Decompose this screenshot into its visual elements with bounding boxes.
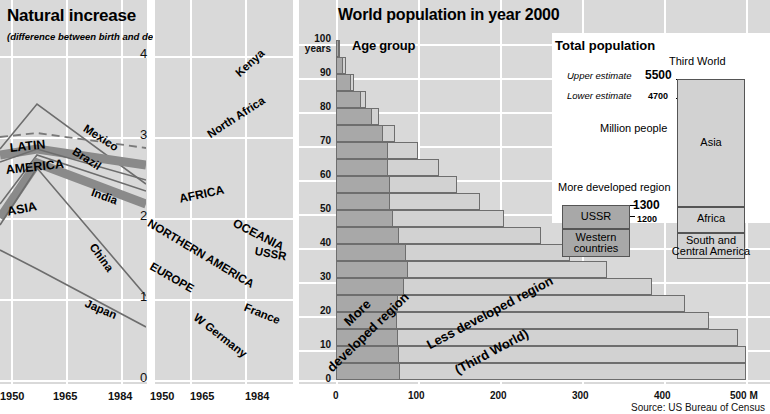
infographic-page: Natural increase (difference between bir… (0, 0, 770, 414)
pyramid-bar-more-developed (336, 244, 406, 261)
inset-block-label-south-central-2: Central America (663, 246, 759, 257)
y-tick-90: 90 (301, 67, 331, 78)
y-tick-0: 0 (301, 373, 331, 384)
third-world-lower-value: 4700 (648, 91, 668, 101)
pyramid-bar-more-developed (336, 193, 390, 210)
third-world-label: Third World (669, 55, 726, 67)
x-tick-100: 100 (408, 390, 425, 401)
y-tick-30: 30 (301, 271, 331, 282)
pyramid-bar-more-developed (336, 91, 361, 108)
inset-unit-label: Million people (600, 122, 667, 134)
md-lower-tick (630, 216, 635, 217)
pyramid-bar-more-developed (336, 142, 388, 159)
y-tick-20: 20 (301, 305, 331, 316)
pyramid-bar-more-developed (336, 363, 400, 380)
y-tick-80: 80 (301, 101, 331, 112)
x-tick-200: 200 (490, 390, 507, 401)
pyramid-bar-more-developed (336, 40, 339, 57)
inset-block-label-africa: Africa (677, 213, 745, 224)
y-tick-40: 40 (301, 237, 331, 248)
more-developed-upper-value: 1300 (633, 198, 660, 212)
source-note: Source: US Bureau of Census (631, 402, 765, 413)
inset-block-label-ussr: USSR (562, 211, 630, 222)
pyramid-bar-more-developed (336, 108, 372, 125)
pyramid-bar-more-developed (336, 261, 408, 278)
third-world-upper-value: 5500 (645, 68, 672, 82)
inset-block-label-asia: Asia (677, 137, 745, 148)
pyramid-bar-more-developed (336, 227, 399, 244)
y-tick-60: 60 (301, 169, 331, 180)
x-tick-300: 300 (572, 390, 589, 401)
upper-estimate-label: Upper estimate (567, 70, 631, 81)
pyramid-bar-more-developed (336, 278, 404, 295)
x-tick-500: 500 M (730, 390, 758, 401)
x-tick-0: 0 (333, 390, 339, 401)
pyramid-bar-more-developed (336, 125, 383, 142)
age-group-label: Age group (352, 38, 415, 53)
md-upper-tick (630, 205, 637, 206)
y-tick-70: 70 (301, 135, 331, 146)
pyramid-bar-more-developed (336, 210, 393, 227)
inset-block-label-western-2: countries (562, 243, 630, 254)
more-developed-region-label: More developed region (558, 181, 671, 193)
pyramid-bar-more-developed (336, 74, 351, 91)
lower-estimate-label: Lower estimate (567, 90, 631, 101)
y-tick-50: 50 (301, 203, 331, 214)
pyramid-bar-more-developed (336, 176, 390, 193)
y-unit-years: years (301, 43, 331, 54)
pyramid-bar-more-developed (336, 159, 388, 176)
x-tick-400: 400 (654, 390, 671, 401)
inset-title: Total population (555, 38, 655, 53)
more-developed-lower-value: 1200 (637, 214, 657, 224)
pyramid-bar-more-developed (336, 57, 343, 74)
y-tick-10: 10 (301, 339, 331, 350)
